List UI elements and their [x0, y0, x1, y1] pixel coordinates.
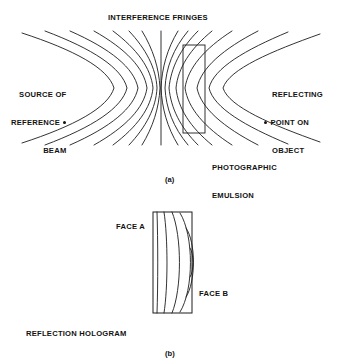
hologram-fringe-4: [180, 213, 191, 312]
reflecting-label-line-1: REFLECTING: [264, 90, 323, 99]
face-b-label: FACE B: [199, 289, 228, 298]
emulsion-label-line-1: PHOTOGRAPHIC: [212, 163, 277, 172]
hologram-fringe-3: [172, 212, 180, 313]
source-label-line-2-row: REFERENCE: [11, 118, 66, 127]
source-label-line-3: BEAM: [11, 146, 66, 155]
hologram-fringe-1: [157, 212, 158, 313]
hologram-fringe-2: [164, 212, 167, 313]
figure-container: INTERFERENCE FRINGES SOURCE OF REFERENCE…: [0, 0, 350, 361]
photographic-emulsion-label: PHOTOGRAPHIC EMULSION: [212, 145, 277, 219]
hologram-fringe-group: [157, 212, 194, 313]
fringe-right-1: [161, 31, 178, 145]
source-of-reference-beam-label: SOURCE OF REFERENCE BEAM: [11, 72, 66, 173]
emulsion-label-line-2: EMULSION: [212, 191, 277, 200]
fringe-left-4: [94, 31, 147, 145]
fringe-left-3: [70, 31, 138, 145]
fringe-right-6: [197, 31, 258, 145]
fringe-right-5: [185, 31, 232, 145]
panel-a-caption: (a): [165, 175, 174, 184]
source-label-line-2: REFERENCE: [11, 118, 60, 127]
reflection-hologram-label: REFLECTION HOLOGRAM: [26, 329, 127, 338]
fringe-right-4: [176, 31, 212, 145]
reflecting-label-line-2-row: POINT ON: [264, 118, 323, 127]
face-a-label: FACE A: [116, 222, 145, 231]
source-label-line-1: SOURCE OF: [11, 90, 66, 99]
object-point-dot-icon: [264, 121, 267, 124]
interference-fringes-title: INTERFERENCE FRINGES: [108, 13, 208, 22]
reference-source-point-dot-icon: [63, 121, 66, 124]
reflecting-label-line-2: POINT ON: [270, 118, 309, 127]
figure-linework: [0, 0, 350, 361]
panel-b-caption: (b): [165, 349, 175, 358]
fringe-right-3: [169, 31, 198, 145]
